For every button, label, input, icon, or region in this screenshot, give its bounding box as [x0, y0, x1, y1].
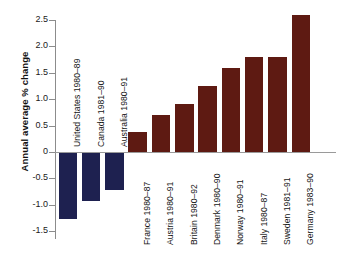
y-tick-label: 2.5 — [22, 15, 48, 24]
bar — [175, 104, 194, 152]
bar-category-label: Denmark 1980–90 — [212, 174, 222, 245]
bar-chart: Annual average % change 2.52.01.51.00.50… — [0, 0, 337, 258]
y-tick-label: 2.0 — [22, 41, 48, 50]
y-axis-tick-labels: 2.52.01.51.00.50-0.5-1.0-1.5 — [22, 0, 48, 258]
bar-category-label: Australia 1980–91 — [119, 77, 129, 147]
y-tick-label: -1.0 — [22, 200, 48, 209]
bar-group: Sweden 1981–91 — [268, 0, 287, 258]
bar-group: Canada 1981–90 — [82, 0, 101, 258]
bar — [152, 115, 171, 152]
bar — [222, 68, 241, 152]
plot-area: United States 1980–89Canada 1981–90Austr… — [56, 0, 337, 258]
bar — [82, 153, 101, 201]
bar — [198, 86, 217, 152]
y-tick-mark — [49, 126, 55, 127]
y-tick-mark — [49, 205, 55, 206]
y-tick-mark — [49, 178, 55, 179]
bar — [268, 57, 287, 152]
bar-category-label: Germany 1983–90 — [305, 173, 315, 245]
bar-group: Austria 1980–91 — [152, 0, 171, 258]
y-tick-mark — [49, 99, 55, 100]
bar-category-label: Austria 1980–91 — [165, 182, 175, 245]
bar — [59, 153, 78, 219]
y-tick-label: 0.5 — [22, 121, 48, 130]
bar — [128, 132, 147, 152]
bar-category-label: France 1980–87 — [142, 182, 152, 245]
bar-group: Italy 1980–87 — [245, 0, 264, 258]
y-tick-label: 0 — [22, 147, 48, 156]
y-tick-mark — [49, 152, 55, 153]
bar-category-label: Italy 1980–87 — [259, 193, 269, 245]
bar-group: Germany 1983–90 — [292, 0, 311, 258]
bar-category-label: United States 1980–89 — [72, 59, 82, 148]
y-tick-label: -1.5 — [22, 226, 48, 235]
bar-group: Norway 1980–91 — [222, 0, 241, 258]
bar-group: Britain 1980–92 — [175, 0, 194, 258]
y-tick-label: 1.5 — [22, 68, 48, 77]
bar-group: United States 1980–89 — [59, 0, 78, 258]
bar — [292, 15, 311, 152]
bar-group: France 1980–87 — [128, 0, 147, 258]
y-tick-mark — [49, 46, 55, 47]
bar-category-label: Britain 1980–92 — [189, 184, 199, 245]
y-tick-mark — [49, 231, 55, 232]
y-tick-label: 1.0 — [22, 94, 48, 103]
y-tick-label: -0.5 — [22, 173, 48, 182]
y-tick-mark — [49, 73, 55, 74]
bar — [105, 153, 124, 190]
bar-category-label: Sweden 1981–91 — [282, 177, 292, 245]
bar-category-label: Norway 1980–91 — [235, 179, 245, 245]
bar-category-label: Canada 1981–90 — [96, 80, 106, 147]
y-tick-mark — [49, 20, 55, 21]
bar-group: Australia 1980–91 — [105, 0, 124, 258]
bar-group: Denmark 1980–90 — [198, 0, 217, 258]
bar — [245, 57, 264, 152]
